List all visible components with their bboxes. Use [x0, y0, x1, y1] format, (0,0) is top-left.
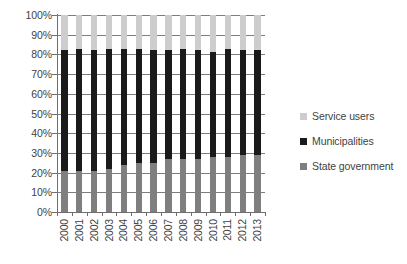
legend-label: Service users [312, 111, 374, 122]
x-axis-tick-label: 2011 [222, 219, 233, 259]
bar-group [76, 15, 82, 212]
x-axis-tick-mark [220, 212, 221, 216]
bar-group [136, 15, 142, 212]
legend-label: Municipalities [312, 136, 374, 147]
x-axis-tick-label: 2005 [133, 219, 144, 259]
bar-segment [195, 50, 201, 158]
y-axis-tick-label: 0% [6, 207, 52, 217]
bar-segment [106, 15, 112, 48]
x-axis-tick-label: 2013 [252, 219, 263, 259]
y-axis-tick-mark [52, 133, 57, 134]
gridline [57, 15, 265, 16]
y-axis-tick-label: 50% [6, 109, 52, 119]
x-axis-tick-mark [206, 212, 207, 216]
bar-group [61, 15, 67, 212]
legend-swatch-icon [300, 138, 307, 145]
chart-legend: Service usersMunicipalitiesState governm… [300, 106, 404, 181]
gridline [57, 35, 265, 36]
bar-segment [76, 171, 82, 212]
y-axis-tick-label: 20% [6, 168, 52, 178]
x-axis-tick-label: 2001 [74, 219, 85, 259]
bar-segment [165, 15, 171, 50]
x-axis-tick-mark [102, 212, 103, 216]
bar-segment [225, 157, 231, 212]
bar-segment [210, 157, 216, 212]
gridline [57, 192, 265, 193]
y-axis-tick-mark [52, 54, 57, 55]
bar-segment [210, 15, 216, 52]
gridline [57, 114, 265, 115]
bar-segment [106, 49, 112, 169]
x-axis-tick-mark [250, 212, 251, 216]
x-axis-tick-label: 2009 [193, 219, 204, 259]
x-axis-tick-mark [161, 212, 162, 216]
x-axis-tick-mark [265, 212, 266, 216]
y-axis-tick-label: 80% [6, 49, 52, 59]
x-axis-tick-mark [235, 212, 236, 216]
bar-segment [136, 49, 142, 163]
bar-group [195, 15, 201, 212]
bar-segment [136, 163, 142, 212]
bar-segment [121, 49, 127, 165]
gridline [57, 173, 265, 174]
x-axis-tick-mark [191, 212, 192, 216]
bar-segment [254, 155, 260, 212]
bar-segment [195, 15, 201, 50]
bar-segment [61, 50, 67, 170]
bar-segment [61, 171, 67, 212]
bar-segment [76, 15, 82, 48]
bar-segment [121, 15, 127, 48]
y-axis-tick-mark [52, 94, 57, 95]
bar-segment [150, 50, 156, 162]
x-axis-tick-mark [87, 212, 88, 216]
bar-segment [180, 49, 186, 159]
x-axis-tick-label: 2006 [148, 219, 159, 259]
legend-item[interactable]: State government [300, 156, 404, 176]
x-axis-tick-label: 2004 [118, 219, 129, 259]
bar-segment [240, 155, 246, 212]
legend-item[interactable]: Municipalities [300, 131, 404, 151]
bar-segment [240, 50, 246, 154]
y-axis-tick-label: 90% [6, 30, 52, 40]
x-axis-tick-label: 2007 [163, 219, 174, 259]
x-axis-tick-mark [176, 212, 177, 216]
y-axis-tick-mark [52, 153, 57, 154]
plot-area [57, 15, 265, 212]
y-axis-tick-mark [52, 192, 57, 193]
gridline [57, 153, 265, 154]
bar-segment [136, 15, 142, 48]
bar-group [165, 15, 171, 212]
bar-segment [195, 159, 201, 212]
bar-segment [210, 52, 216, 156]
stacked-column-chart: 0%10%20%30%40%50%60%70%80%90%100% 200020… [0, 0, 407, 264]
x-axis-tick-label: 2008 [178, 219, 189, 259]
y-axis-tick-mark [52, 15, 57, 16]
y-axis-tick-mark [52, 114, 57, 115]
bar-segment [91, 15, 97, 50]
y-axis-tick-mark [52, 173, 57, 174]
gridline [57, 94, 265, 95]
bar-segment [76, 49, 82, 171]
bar-segment [240, 15, 246, 50]
x-axis-tick-label: 2012 [237, 219, 248, 259]
bar-segment [165, 159, 171, 212]
gridline [57, 54, 265, 55]
x-axis-tick-mark [146, 212, 147, 216]
legend-swatch-icon [300, 163, 307, 170]
y-axis-tick-mark [52, 74, 57, 75]
legend-swatch-icon [300, 113, 307, 120]
legend-item[interactable]: Service users [300, 106, 404, 126]
x-axis-tick-mark [116, 212, 117, 216]
bar-group [240, 15, 246, 212]
bar-segment [165, 50, 171, 158]
x-axis-tick-label: 2003 [104, 219, 115, 259]
y-axis-labels: 0%10%20%30%40%50%60%70%80%90%100% [0, 0, 52, 264]
bar-segment [150, 15, 156, 50]
bar-group [91, 15, 97, 212]
bar-group [106, 15, 112, 212]
bar-segment [61, 15, 67, 50]
x-axis-tick-label: 2000 [59, 219, 70, 259]
y-axis-tick-label: 10% [6, 187, 52, 197]
bar-group [210, 15, 216, 212]
bar-group [225, 15, 231, 212]
